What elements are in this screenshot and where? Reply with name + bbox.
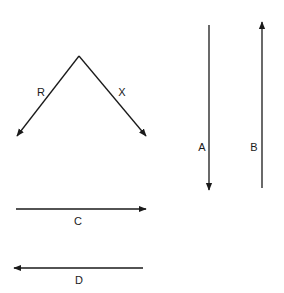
vector-x-label: X bbox=[118, 87, 125, 98]
vector-r-label: R bbox=[37, 87, 45, 98]
vector-x-arrow bbox=[79, 56, 146, 136]
vector-arrows bbox=[0, 0, 284, 293]
vector-b-label: B bbox=[250, 142, 257, 153]
vector-diagram: R X A B C D bbox=[0, 0, 284, 293]
vector-d-label: D bbox=[75, 275, 83, 286]
vector-r-arrow bbox=[17, 56, 79, 136]
vector-c-label: C bbox=[74, 216, 82, 227]
vector-a-label: A bbox=[198, 142, 205, 153]
